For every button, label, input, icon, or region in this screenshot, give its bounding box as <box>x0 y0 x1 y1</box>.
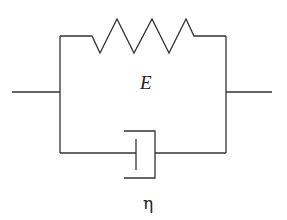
dashpot-cylinder-icon <box>124 131 155 178</box>
spring-icon <box>60 19 226 53</box>
kelvin-voigt-diagram: E η <box>0 0 287 220</box>
spring-label: E <box>139 72 152 93</box>
dashpot-label: η <box>143 193 153 213</box>
